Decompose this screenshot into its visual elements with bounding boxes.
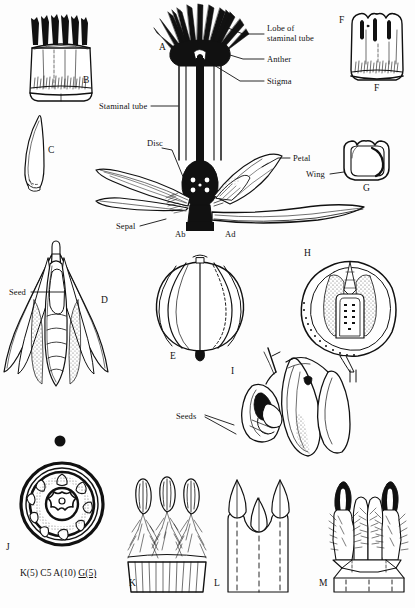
formula-androecium: A(10): [53, 568, 76, 578]
figure-letter-l: L: [214, 578, 220, 588]
figure-c-artwork: [25, 116, 44, 192]
figure-g-artwork: [344, 141, 389, 180]
figure-letter-h: H: [304, 248, 311, 258]
figure-letter-i: I: [231, 366, 234, 376]
formula-corolla: C5: [40, 568, 51, 578]
label-stigma: Stigma: [267, 76, 292, 86]
formula-calyx: K(5): [20, 568, 38, 578]
figure-letter-g: G: [363, 183, 370, 193]
figure-letter-a: A: [159, 42, 166, 52]
figure-letter-e: E: [170, 351, 176, 361]
figure-m-artwork: [329, 482, 408, 592]
label-disc: Disc: [147, 138, 163, 148]
figure-k-artwork: [128, 477, 206, 592]
label-seed: Seed: [9, 287, 26, 297]
figure-letter-m: M: [319, 578, 327, 588]
label-staminal-tube: Staminal tube: [99, 101, 147, 111]
label-petal: Petal: [293, 153, 311, 163]
figure-letter-d: D: [101, 295, 108, 305]
plate-artwork: [0, 0, 415, 608]
figure-j-artwork: [21, 436, 103, 546]
figure-letter-k: K: [129, 578, 136, 588]
figure-i-artwork: [242, 348, 350, 456]
figure-letter-f-left: F: [339, 15, 344, 25]
figure-d-artwork: [4, 241, 108, 386]
figure-letter-j: J: [6, 542, 10, 552]
figure-b-artwork: [30, 14, 92, 101]
figure-letter-c: C: [48, 145, 54, 155]
figure-h-artwork: [301, 262, 396, 383]
label-anther: Anther: [267, 54, 291, 64]
label-ad: Ad: [225, 229, 236, 239]
label-seeds: Seeds: [176, 411, 196, 421]
figure-a-artwork: [96, 4, 364, 231]
botanical-plate: Lobe ofstaminal tube Anther Stigma Stami…: [0, 0, 415, 608]
figure-l-artwork: [228, 480, 289, 592]
figure-e-artwork: [156, 255, 243, 361]
figure-f-artwork: [351, 14, 403, 81]
formula-gynoecium: G(5): [78, 568, 96, 578]
floral-formula: K(5) C5 A(10) G(5): [20, 568, 96, 578]
figure-letter-b: B: [83, 75, 89, 85]
label-lobe-of-staminal-tube: Lobe ofstaminal tube: [267, 23, 314, 43]
label-wing: Wing: [306, 169, 325, 179]
label-sepal: Sepal: [116, 221, 135, 231]
label-ab: Ab: [175, 229, 186, 239]
figure-letter-f-bottom: F: [374, 83, 379, 93]
